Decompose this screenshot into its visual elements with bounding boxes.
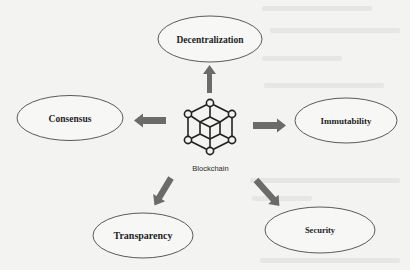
node-label-immutability: Immutability [320,116,372,126]
node-consensus: Consensus [17,96,123,141]
blockchain-cube-network-icon [184,99,235,154]
node-label-security: Security [305,225,336,235]
arrow-left-icon [134,114,166,128]
node-label-consensus: Consensus [49,114,92,124]
diagram-canvas: Decentralization Consensus Immutability … [0,0,410,270]
arrow-right-icon [253,119,286,133]
node-transparency: Transparency [93,213,193,258]
node-label-transparency: Transparency [113,230,172,241]
arrow-down-right-icon [251,175,285,210]
arrow-up-icon [203,65,216,93]
node-immutability: Immutability [295,98,397,143]
center-label-blockchain: Blockchain [192,164,228,173]
node-label-decentralization: Decentralization [176,35,244,45]
node-decentralization: Decentralization [158,16,262,62]
diagram-svg: Decentralization Consensus Immutability … [0,0,410,270]
arrow-down-left-icon [149,174,177,209]
node-security: Security [265,207,375,253]
